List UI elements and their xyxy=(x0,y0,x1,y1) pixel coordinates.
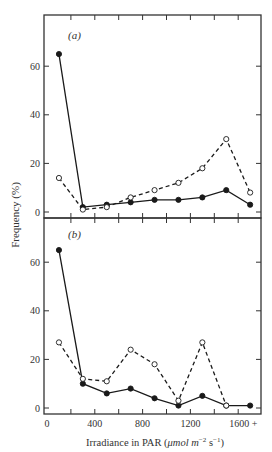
data-point-open xyxy=(128,347,133,352)
y-tick-label: 60 xyxy=(30,61,40,72)
panel-a-label: (a) xyxy=(68,29,81,42)
data-point-filled xyxy=(200,393,205,398)
panel-b-label: (b) xyxy=(68,228,81,241)
series-line-filled xyxy=(59,250,250,406)
x-tick-label: 400 xyxy=(87,418,102,429)
x-tick-label: 800 xyxy=(135,418,150,429)
data-point-open xyxy=(248,190,253,195)
data-point-open xyxy=(104,205,109,210)
data-point-open xyxy=(176,180,181,185)
data-point-filled xyxy=(152,197,157,202)
data-point-open xyxy=(56,340,61,345)
data-point-filled xyxy=(200,195,205,200)
x-axis-label: Irradiance in PAR (μmol m−2 s−1) xyxy=(86,436,224,449)
data-point-open xyxy=(80,376,85,381)
x-tick-label: 0 xyxy=(45,418,50,429)
data-point-open xyxy=(224,137,229,142)
data-point-filled xyxy=(104,391,109,396)
data-point-open xyxy=(224,403,229,408)
plot-frame xyxy=(44,15,261,218)
data-point-filled xyxy=(176,197,181,202)
y-tick-label: 60 xyxy=(30,257,40,268)
y-tick-label: 40 xyxy=(30,109,40,120)
data-point-open xyxy=(200,166,205,171)
panel-b: 0204060040080012001600 + xyxy=(30,218,261,429)
data-point-open xyxy=(176,398,181,403)
y-tick-label: 20 xyxy=(30,158,40,169)
data-point-filled xyxy=(248,202,253,207)
x-tick-label: 1200 xyxy=(180,418,200,429)
data-point-open xyxy=(56,175,61,180)
x-tick-label: 1600 + xyxy=(229,418,258,429)
data-point-filled xyxy=(152,396,157,401)
y-tick-label: 0 xyxy=(35,207,40,218)
panel-a: 0204060 xyxy=(30,15,261,218)
data-point-open xyxy=(80,207,85,212)
series-line-filled xyxy=(59,54,250,207)
data-point-open xyxy=(200,340,205,345)
data-point-filled xyxy=(56,51,61,56)
data-point-open xyxy=(128,195,133,200)
data-point-open xyxy=(152,362,157,367)
y-axis-label: Frequency (%) xyxy=(9,182,22,248)
data-point-filled xyxy=(224,188,229,193)
data-point-open xyxy=(104,379,109,384)
y-tick-label: 40 xyxy=(30,305,40,316)
data-point-filled xyxy=(56,247,61,252)
data-point-filled xyxy=(128,386,133,391)
y-tick-label: 0 xyxy=(35,403,40,414)
plot-frame xyxy=(44,218,261,414)
y-tick-label: 20 xyxy=(30,354,40,365)
data-point-filled xyxy=(248,403,253,408)
data-point-open xyxy=(152,188,157,193)
figure: 0204060 0204060040080012001600 + (a) (b)… xyxy=(0,0,272,452)
